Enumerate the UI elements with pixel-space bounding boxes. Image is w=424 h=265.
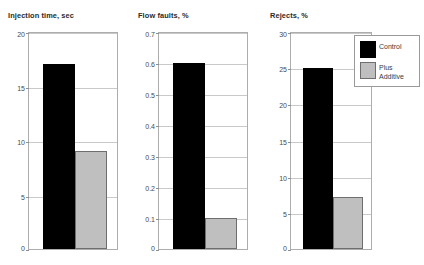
y-tick-label: 5 xyxy=(283,210,287,217)
y-tick-label: 10 xyxy=(279,174,287,181)
y-tick-label: 20 xyxy=(279,102,287,109)
y-tick-label: 0.3 xyxy=(145,154,155,161)
chart-panel-flow-faults: Flow faults, % 0.7 0.6 0.5 0.4 0.3 0.2 0… xyxy=(130,0,260,265)
tick-mark xyxy=(156,250,159,251)
panel-title: Rejects, % xyxy=(270,11,308,20)
y-tick-label: 10 xyxy=(17,139,25,146)
chart-figure: Injection time, sec 20 15 10 5 0 Flow fa… xyxy=(0,0,424,265)
y-tick-label: 0 xyxy=(151,245,155,252)
y-tick-label: 0 xyxy=(283,245,287,252)
bar-plus-additive xyxy=(333,197,363,249)
legend-label-plus-additive: Plus Additive xyxy=(379,62,404,81)
plot-area: 20 15 10 5 0 xyxy=(28,32,118,250)
bar-control xyxy=(43,64,75,249)
y-tick-label: 30 xyxy=(279,31,287,38)
tick-mark xyxy=(26,250,29,251)
chart-legend: Control Plus Additive xyxy=(354,35,420,87)
y-tick-label: 20 xyxy=(17,31,25,38)
bar-plus-additive xyxy=(75,151,107,249)
bar-plus-additive xyxy=(205,218,237,249)
chart-panel-injection-time: Injection time, sec 20 15 10 5 0 xyxy=(0,0,130,265)
legend-label-control: Control xyxy=(379,41,402,51)
panel-title: Injection time, sec xyxy=(8,11,74,20)
y-tick-label: 0.7 xyxy=(145,31,155,38)
y-tick-label: 0.4 xyxy=(145,123,155,130)
legend-swatch-control xyxy=(360,41,376,58)
legend-item-plus-additive: Plus Additive xyxy=(360,62,415,81)
legend-swatch-plus-additive xyxy=(360,62,376,79)
y-tick-label: 0 xyxy=(21,245,25,252)
y-tick-label: 0.5 xyxy=(145,92,155,99)
tick-mark xyxy=(288,250,291,251)
y-tick-label: 0.2 xyxy=(145,185,155,192)
y-tick-label: 5 xyxy=(21,193,25,200)
plot-area: 0.7 0.6 0.5 0.4 0.3 0.2 0.1 0 xyxy=(158,32,248,250)
bar-group xyxy=(29,33,117,249)
legend-item-control: Control xyxy=(360,41,415,58)
bar-control xyxy=(303,68,333,249)
bar-control xyxy=(173,63,205,249)
y-tick-label: 15 xyxy=(279,138,287,145)
y-tick-label: 0.1 xyxy=(145,216,155,223)
y-tick-label: 0.6 xyxy=(145,61,155,68)
panel-title: Flow faults, % xyxy=(138,11,189,20)
bar-group xyxy=(159,33,247,249)
y-tick-label: 25 xyxy=(279,66,287,73)
chart-panel-rejects: Rejects, % 30 25 20 15 10 5 0 xyxy=(260,0,424,265)
y-tick-label: 15 xyxy=(17,84,25,91)
